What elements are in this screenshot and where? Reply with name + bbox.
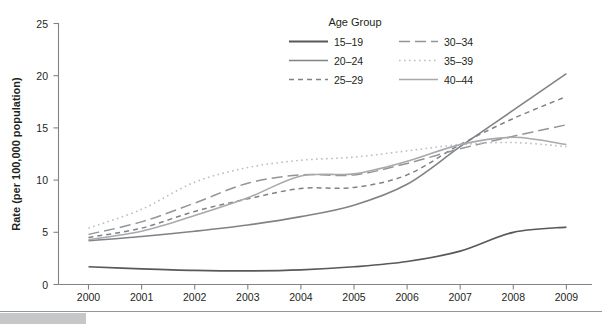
legend-label-15-19: 15–19: [334, 36, 363, 48]
y-tick-label-10: 10: [36, 174, 48, 186]
x-tick-label-2009: 2009: [555, 291, 579, 303]
footer-decoration: [0, 312, 602, 324]
legend-item-30-34[interactable]: 30–34: [399, 36, 473, 48]
x-tick-label-2000: 2000: [77, 291, 101, 303]
y-axis: 25 20 15 10 5 0 Rate (per 100,000 popula…: [10, 18, 59, 291]
series-line-30-34: [89, 125, 567, 235]
legend-label-20-24: 20–24: [334, 55, 363, 67]
legend-label-35-39: 35–39: [444, 55, 473, 67]
legend-title: Age Group: [328, 16, 381, 28]
x-tick-label-2007: 2007: [449, 291, 473, 303]
y-tick-label-25: 25: [36, 18, 48, 30]
legend-label-40-44: 40–44: [444, 74, 473, 86]
x-tick-label-2006: 2006: [395, 291, 419, 303]
x-tick-label-2008: 2008: [502, 291, 526, 303]
x-tick-label-2002: 2002: [183, 291, 207, 303]
x-tick-label-2001: 2001: [130, 291, 154, 303]
y-tick-label-5: 5: [42, 226, 48, 238]
x-tick-label-2005: 2005: [342, 291, 366, 303]
series-line-15-19: [89, 227, 567, 271]
x-tick-label-2003: 2003: [236, 291, 260, 303]
legend-label-25-29: 25–29: [334, 74, 363, 86]
y-axis-title: Rate (per 100,000 population): [10, 77, 22, 231]
chart-legend: Age Group 15–19 30–34 20–24 35–39 25–29: [289, 16, 473, 86]
line-chart: 25 20 15 10 5 0 Rate (per 100,000 popula…: [0, 0, 602, 324]
footer-bar: [0, 313, 86, 324]
chart-figure: 25 20 15 10 5 0 Rate (per 100,000 popula…: [0, 0, 602, 324]
legend-item-25-29[interactable]: 25–29: [289, 74, 363, 86]
legend-item-35-39[interactable]: 35–39: [399, 55, 473, 67]
y-tick-label-0: 0: [42, 279, 48, 291]
x-tick-label-2004: 2004: [289, 291, 313, 303]
legend-item-15-19[interactable]: 15–19: [289, 36, 363, 48]
series-group: [89, 74, 567, 271]
legend-label-30-34: 30–34: [444, 36, 473, 48]
x-axis: 2000 2001 2002 2003 2004 2005 2006 2007 …: [59, 285, 593, 304]
legend-item-40-44[interactable]: 40–44: [399, 74, 473, 86]
y-tick-label-20: 20: [36, 70, 48, 82]
legend-item-20-24[interactable]: 20–24: [289, 55, 363, 67]
y-tick-label-15: 15: [36, 122, 48, 134]
